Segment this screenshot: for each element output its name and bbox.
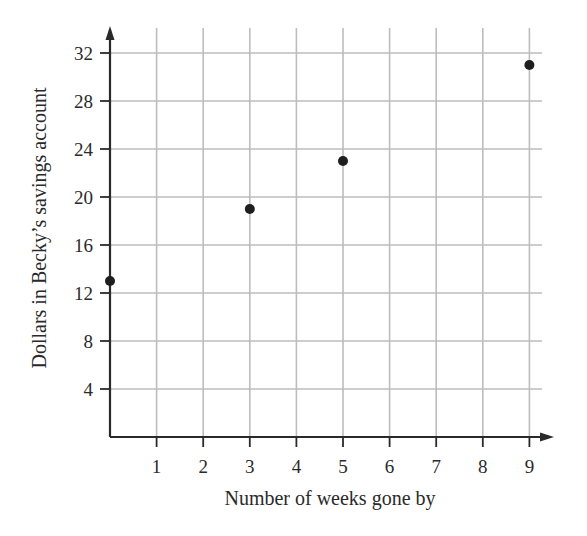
x-tick-label: 8 [478, 456, 488, 477]
axes [106, 26, 555, 442]
data-point [338, 156, 348, 166]
x-tick-label: 7 [431, 456, 441, 477]
y-tick-label: 24 [74, 139, 94, 160]
x-tick-label: 3 [245, 456, 255, 477]
data-points [105, 60, 534, 286]
y-tick-label: 20 [74, 187, 93, 208]
y-tick-label: 28 [74, 91, 93, 112]
y-tick-label: 16 [74, 235, 93, 256]
x-tick-label: 6 [385, 456, 395, 477]
x-tick-label: 1 [152, 456, 162, 477]
x-tick-label: 2 [198, 456, 208, 477]
y-tick-label: 8 [84, 331, 94, 352]
y-axis-arrow-icon [106, 26, 115, 40]
y-tick-label: 4 [84, 379, 94, 400]
x-axis-arrow-icon [540, 433, 554, 442]
y-axis-title: Dollars in Becky’s savings account [28, 87, 51, 368]
y-tick-label: 32 [74, 43, 93, 64]
data-point [524, 60, 534, 70]
x-tick-label: 5 [338, 456, 348, 477]
y-axis-ticks: 48121620242832 [74, 43, 110, 400]
data-point [245, 204, 255, 214]
y-tick-label: 12 [74, 283, 93, 304]
x-tick-label: 4 [292, 456, 302, 477]
x-axis-title: Number of weeks gone by [224, 487, 435, 510]
x-tick-label: 9 [525, 456, 535, 477]
x-axis-ticks: 123456789 [152, 437, 534, 477]
data-point [105, 276, 115, 286]
scatter-chart: 123456789 48121620242832 Number of weeks… [0, 0, 587, 536]
grid-lines [110, 28, 542, 437]
